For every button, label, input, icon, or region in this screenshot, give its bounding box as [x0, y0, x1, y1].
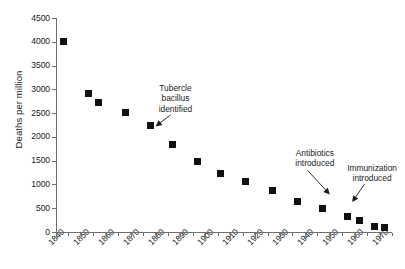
tuberculosis-mortality-chart: Deaths per million 050010001500200025003… [0, 0, 405, 269]
annotation-arrow-immunization [0, 0, 405, 269]
